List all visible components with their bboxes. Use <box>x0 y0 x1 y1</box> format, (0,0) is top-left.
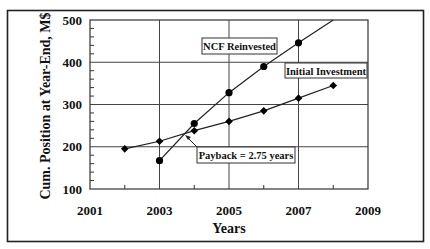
circle-marker-icon <box>191 120 198 127</box>
y-axis-title: Cum. Position at Year-End, M$ <box>38 12 53 199</box>
y-tick-label: 500 <box>63 13 83 28</box>
x-tick-label: 2003 <box>147 203 174 218</box>
label-initial-investment: Initial Investment <box>285 63 367 78</box>
svg-text:Payback = 2.75 years: Payback = 2.75 years <box>199 150 294 161</box>
x-axis-title: Years <box>212 221 246 236</box>
y-tick-label: 200 <box>63 139 83 154</box>
y-tick-label: 100 <box>63 182 83 197</box>
svg-text:NCF Reinvested: NCF Reinvested <box>203 41 276 52</box>
x-tick-label: 2005 <box>216 203 243 218</box>
chart: 100200300400500 20012003200520072009 Cum… <box>0 0 430 249</box>
circle-marker-icon <box>225 89 232 96</box>
circle-marker-icon <box>260 63 267 70</box>
x-tick-label: 2001 <box>77 203 103 218</box>
y-tick-label: 300 <box>63 97 83 112</box>
circle-marker-icon <box>295 39 302 46</box>
svg-text:Initial Investment: Initial Investment <box>286 66 367 77</box>
x-tick-label: 2009 <box>355 203 382 218</box>
circle-marker-icon <box>156 157 163 164</box>
y-tick-label: 400 <box>63 55 83 70</box>
x-tick-label: 2007 <box>286 203 313 218</box>
label-ncf-reinvested: NCF Reinvested <box>202 38 277 54</box>
